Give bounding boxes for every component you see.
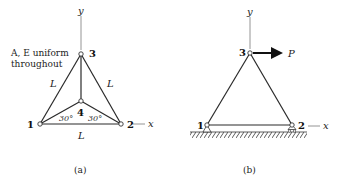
node-2 bbox=[290, 123, 294, 127]
figure-a: y x 1 2 3 4 L L L 30° 30° A, E uniform t… bbox=[10, 5, 154, 175]
node-label-3: 3 bbox=[89, 48, 96, 59]
material-note-line2: throughout bbox=[11, 59, 63, 69]
node-label-3: 3 bbox=[239, 47, 246, 58]
node-1 bbox=[38, 122, 42, 126]
load-label: P bbox=[287, 48, 295, 59]
node-2 bbox=[119, 122, 123, 126]
x-axis-label: x bbox=[323, 120, 329, 131]
roller-wheel-icon bbox=[293, 130, 295, 132]
angle-label-right: 30° bbox=[88, 114, 102, 123]
ground-hatch bbox=[190, 132, 307, 138]
caption-a: (a) bbox=[74, 165, 86, 175]
figure-b: y x P 1 2 3 (b) bbox=[190, 6, 329, 175]
member-1-3 bbox=[207, 53, 250, 125]
roller-wheel-icon bbox=[288, 130, 290, 132]
node-label-2: 2 bbox=[127, 119, 134, 130]
member-length-left: L bbox=[49, 78, 57, 89]
node-3 bbox=[248, 51, 252, 55]
node-label-1: 1 bbox=[197, 120, 204, 131]
node-label-2: 2 bbox=[298, 120, 305, 131]
caption-b: (b) bbox=[243, 165, 256, 175]
x-axis-label: x bbox=[148, 118, 154, 129]
member-2-3 bbox=[250, 53, 292, 125]
member-length-bottom: L bbox=[77, 130, 85, 141]
node-3 bbox=[79, 52, 83, 56]
node-1 bbox=[205, 123, 209, 127]
node-label-4: 4 bbox=[77, 107, 84, 118]
y-axis-label: y bbox=[77, 5, 84, 16]
node-label-1: 1 bbox=[27, 119, 34, 130]
member-length-right: L bbox=[106, 78, 114, 89]
truss-figure: y x 1 2 3 4 L L L 30° 30° A, E uniform t… bbox=[0, 0, 342, 186]
y-axis-label: y bbox=[246, 6, 253, 17]
node-4 bbox=[79, 99, 83, 103]
angle-label-left: 30° bbox=[59, 114, 73, 123]
material-note-line1: A, E uniform bbox=[10, 48, 69, 58]
